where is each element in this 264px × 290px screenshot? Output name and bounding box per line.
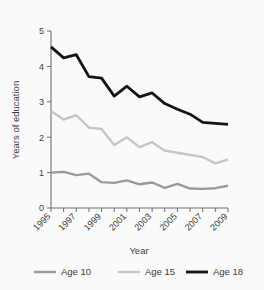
y-tick-label: 0 bbox=[39, 203, 44, 213]
y-tick-label: 2 bbox=[39, 133, 44, 143]
y-tick-label: 5 bbox=[39, 26, 44, 36]
legend-label-age-10: Age 10 bbox=[61, 266, 91, 277]
legend-label-age-15: Age 15 bbox=[145, 266, 175, 277]
line-chart: 012345 Years of education 19951997199920… bbox=[0, 0, 264, 290]
y-tick-label: 4 bbox=[39, 62, 44, 72]
y-tick-label: 1 bbox=[39, 168, 44, 178]
figure-container: 012345 Years of education 19951997199920… bbox=[0, 0, 264, 290]
x-axis-title: Year bbox=[129, 245, 148, 256]
y-tick-label: 3 bbox=[39, 97, 44, 107]
y-axis-title: Years of education bbox=[10, 81, 21, 159]
legend-label-age-18: Age 18 bbox=[213, 266, 243, 277]
